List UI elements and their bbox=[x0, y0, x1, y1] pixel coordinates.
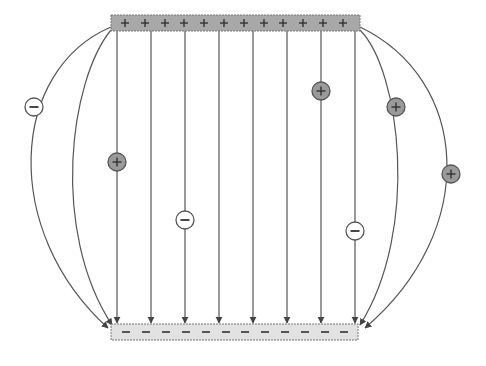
field-line-curved bbox=[360, 27, 447, 328]
field-line-curved bbox=[360, 30, 398, 325]
negative-charge-icon bbox=[346, 222, 364, 240]
plates bbox=[111, 15, 360, 340]
field-line-curved bbox=[73, 30, 112, 325]
positive-plate bbox=[111, 15, 360, 31]
field-lines bbox=[31, 27, 447, 328]
negative-plate bbox=[111, 324, 358, 340]
test-charges bbox=[25, 82, 460, 240]
positive-charge-icon bbox=[108, 153, 126, 171]
positive-charge-icon bbox=[387, 98, 405, 116]
field-line-curved bbox=[31, 27, 111, 328]
negative-charge-icon bbox=[176, 211, 194, 229]
field-diagram bbox=[0, 0, 486, 366]
negative-charge-icon bbox=[25, 98, 43, 116]
positive-charge-icon bbox=[312, 82, 330, 100]
positive-charge-icon bbox=[442, 165, 460, 183]
